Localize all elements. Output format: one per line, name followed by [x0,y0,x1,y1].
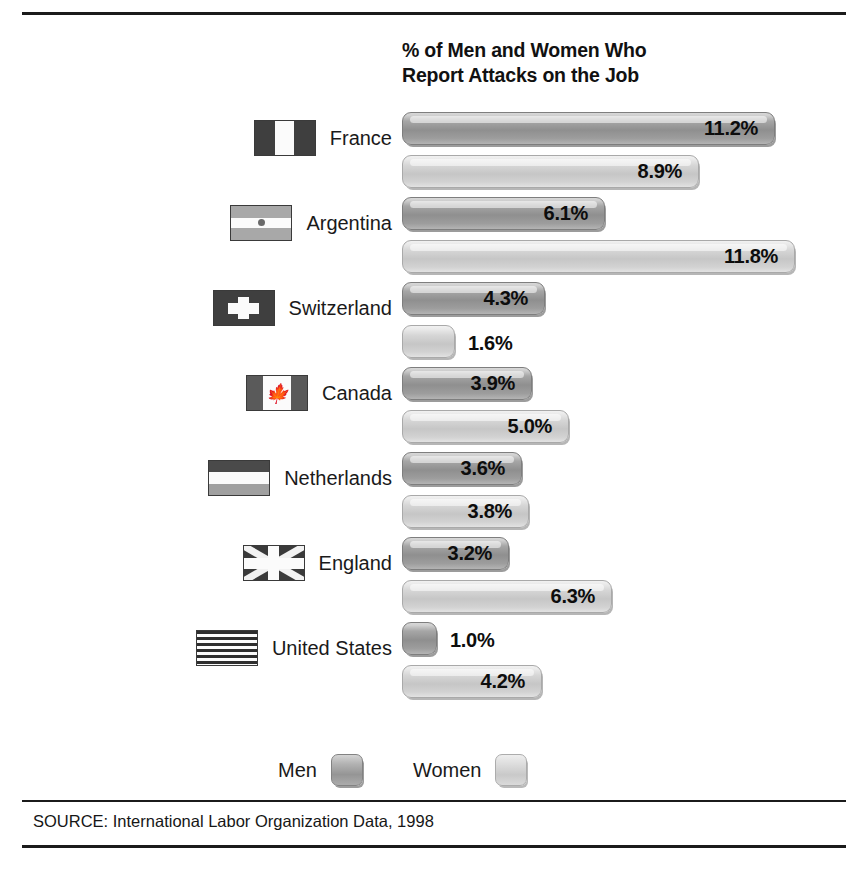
country-name: United States [272,637,392,660]
bar-value-men: 3.6% [461,457,521,480]
bar-line-women: 1.6% [402,325,853,361]
legend-swatch-women [495,754,527,786]
country-name: England [319,552,392,575]
legend-item-men: Men [278,754,363,786]
flag-argentina-icon [230,205,292,241]
legend-label-women: Women [413,759,482,782]
flag-switzerland-icon [213,290,275,326]
flag-canada-icon: 🍁 [246,375,308,411]
table-row: Argentina 6.1% 11.8% [0,197,853,282]
chart-page: % of Men and Women Who Report Attacks on… [0,0,853,888]
row-bars-netherlands: 3.6% 3.8% [402,452,853,537]
country-name: Argentina [306,212,392,235]
country-name: Canada [322,382,392,405]
row-bars-canada: 3.9% 5.0% [402,367,853,452]
country-name: Switzerland [289,297,392,320]
bar-women: 6.3% [402,580,612,613]
bar-value-women: 8.9% [638,160,698,183]
table-row: 🍁 Canada 3.9% 5.0% [0,367,853,452]
flag-england-icon [243,545,305,581]
bar-value-women: 6.3% [551,585,611,608]
bar-line-men: 3.2% [402,537,853,573]
bar-line-women: 5.0% [402,410,853,446]
bar-men: 3.6% [402,452,522,485]
row-bars-switzerland: 4.3% 1.6% [402,282,853,367]
bar-men: 3.9% [402,367,532,400]
country-name: France [330,127,392,150]
bar-men: 6.1% [402,197,605,230]
legend-swatch-men [331,754,363,786]
bar-line-women: 6.3% [402,580,853,616]
bottom-divider [22,845,846,848]
row-bars-england: 3.2% 6.3% [402,537,853,622]
country-name: Netherlands [284,467,392,490]
row-bars-united-states: 1.0% 4.2% [402,622,853,707]
table-row: United States 1.0% 4.2% [0,622,853,707]
bar-women: 3.8% [402,495,529,528]
flag-france-icon [254,120,316,156]
bar-value-men: 6.1% [544,202,604,225]
table-row: Netherlands 3.6% 3.8% [0,452,853,537]
bar-men: 3.2% [402,537,509,570]
table-row: Switzerland 4.3% 1.6% [0,282,853,367]
row-label-argentina: Argentina [120,205,392,241]
bar-value-men: 4.3% [484,287,544,310]
bar-line-men: 6.1% [402,197,853,233]
source-divider [22,800,846,802]
legend-label-men: Men [278,759,317,782]
bar-line-women: 3.8% [402,495,853,531]
flag-united-states-icon [196,630,258,666]
bar-line-men: 11.2% [402,112,853,148]
bar-value-men: 3.9% [471,372,531,395]
source-note: SOURCE: International Labor Organization… [33,812,434,831]
bar-line-women: 11.8% [402,240,853,276]
bar-value-women: 3.8% [468,500,528,523]
bar-line-men: 4.3% [402,282,853,318]
bar-men [402,622,437,655]
bar-value-women: 11.8% [724,245,794,268]
bar-value-men: 11.2% [704,117,774,140]
bar-line-women: 4.2% [402,665,853,701]
bar-value-women: 5.0% [508,415,568,438]
row-bars-france: 11.2% 8.9% [402,112,853,197]
bar-value-men: 1.0% [450,629,494,652]
bar-men: 11.2% [402,112,775,145]
bar-women: 11.8% [402,240,795,273]
bar-women: 8.9% [402,155,699,188]
legend-item-women: Women [413,754,528,786]
chart-title-line-2: Report Attacks on the Job [402,63,732,88]
bar-value-women: 4.2% [481,670,541,693]
bar-women: 4.2% [402,665,542,698]
row-bars-argentina: 6.1% 11.8% [402,197,853,282]
bar-value-men: 3.2% [448,542,508,565]
bar-women [402,325,455,358]
chart-title: % of Men and Women Who Report Attacks on… [402,38,732,88]
row-label-netherlands: Netherlands [120,460,392,496]
bar-line-women: 8.9% [402,155,853,191]
chart-rows: France 11.2% 8.9% [0,112,853,707]
table-row: England 3.2% 6.3% [0,537,853,622]
bar-line-men: 3.9% [402,367,853,403]
bar-women: 5.0% [402,410,569,443]
bar-line-men: 1.0% [402,622,853,658]
row-label-england: England [120,545,392,581]
top-divider [22,12,846,15]
row-label-united-states: United States [120,630,392,666]
chart-legend: Men Women [0,748,853,792]
table-row: France 11.2% 8.9% [0,112,853,197]
bar-line-men: 3.6% [402,452,853,488]
flag-netherlands-icon [208,460,270,496]
bar-men: 4.3% [402,282,545,315]
chart-title-line-1: % of Men and Women Who [402,38,732,63]
bar-value-women: 1.6% [468,332,512,355]
row-label-canada: 🍁 Canada [120,375,392,411]
row-label-switzerland: Switzerland [120,290,392,326]
row-label-france: France [120,120,392,156]
